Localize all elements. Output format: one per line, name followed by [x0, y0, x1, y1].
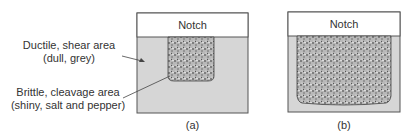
ductile-label-line2: (dull, grey)	[14, 52, 124, 65]
brittle-label-line2: (shiny, salt and pepper)	[8, 99, 128, 112]
ductile-label-line1: Ductile, shear area	[14, 39, 124, 52]
notch-label-a: Notch	[137, 19, 248, 32]
caption-a: (a)	[137, 119, 248, 132]
brittle-label-line1: Brittle, cleavage area	[8, 86, 128, 99]
caption-b: (b)	[288, 119, 400, 132]
notch-label-b: Notch	[288, 18, 400, 31]
brittle-region-a	[168, 37, 214, 81]
brittle-region-b	[297, 36, 391, 105]
